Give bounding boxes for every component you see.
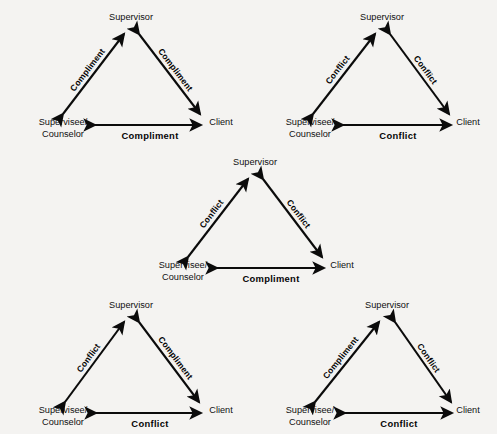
edge-label-base: Conflict — [379, 130, 416, 141]
node-label-client: Client — [456, 117, 480, 127]
edge-right-line — [395, 322, 451, 402]
edge-right-line — [139, 34, 200, 114]
node-label-supervisee-line1: Supervisee/ — [159, 260, 208, 270]
node-label-supervisee-line2: Counselor — [162, 272, 204, 282]
node-label-supervisor: Supervisor — [233, 157, 277, 167]
node-label-supervisee-line1: Supervisee/ — [286, 405, 335, 415]
node-label-supervisee-line2: Counselor — [42, 417, 84, 427]
diagram-middle: Supervisor Supervisee/ Counselor Client … — [131, 149, 371, 284]
edge-label-left: Compliment — [68, 46, 107, 93]
edge-left-line — [315, 322, 379, 402]
edge-left-line — [65, 322, 124, 402]
edge-label-right: Compliment — [156, 46, 195, 93]
node-label-supervisee-line2: Counselor — [289, 417, 331, 427]
node-label-supervisee-line1: Supervisee/ — [39, 405, 88, 415]
edge-left-line — [313, 34, 375, 114]
node-label-supervisee-line1: Supervisee/ — [39, 117, 88, 127]
edge-right-line — [390, 34, 449, 114]
node-label-supervisee-line2: Counselor — [42, 129, 84, 139]
node-label-client: Client — [456, 405, 480, 415]
diagram-top-left: Supervisor Supervisee/ Counselor Client … — [0, 4, 240, 144]
node-label-client: Client — [209, 405, 233, 415]
node-label-supervisor: Supervisor — [109, 12, 153, 22]
edge-label-right: Compliment — [156, 334, 195, 381]
diagram-top-right: Supervisor Supervisee/ Counselor Client … — [255, 4, 495, 144]
node-label-supervisee-line2: Counselor — [289, 129, 331, 139]
node-label-supervisee-line1: Supervisee/ — [286, 117, 335, 127]
edge-label-base: Compliment — [121, 130, 178, 141]
edge-label-base: Conflict — [131, 418, 168, 429]
edge-label-left: Compliment — [321, 335, 361, 381]
diagram-bottom-right: Supervisor Supervisee/ Counselor Client … — [255, 292, 495, 432]
edge-right-line — [263, 179, 322, 257]
node-label-supervisor: Supervisor — [109, 300, 153, 310]
node-label-supervisor: Supervisor — [365, 300, 409, 310]
edge-right-line — [139, 322, 199, 402]
edge-label-base: Conflict — [380, 418, 417, 429]
edge-label-base: Compliment — [242, 273, 299, 284]
edge-left-line — [188, 179, 248, 257]
node-label-client: Client — [209, 117, 233, 127]
node-label-supervisor: Supervisor — [360, 12, 404, 22]
diagram-page: Supervisor Supervisee/ Counselor Client … — [0, 0, 497, 434]
edge-left-line — [63, 34, 124, 114]
diagram-bottom-left: Supervisor Supervisee/ Counselor Client … — [0, 292, 240, 432]
node-label-client: Client — [330, 260, 354, 270]
